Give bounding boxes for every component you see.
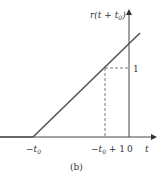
figure-caption: (b) (70, 162, 83, 172)
chart-figure: r(t + t0) 1 −t0 −t0 + 1 0 t (b) (0, 0, 157, 174)
ramp-sloped-segment (33, 33, 140, 137)
chart-svg: r(t + t0) 1 −t0 −t0 + 1 0 t (b) (0, 0, 157, 174)
x-tick-neg-t0: −t0 (26, 144, 41, 155)
x-axis-label: t (145, 144, 149, 154)
x-tick-neg-t0-plus-1: −t0 + 1 (91, 144, 125, 155)
y-tick-1: 1 (133, 64, 139, 74)
x-tick-zero: 0 (127, 144, 133, 154)
y-axis-label: r(t + t0) (90, 10, 126, 21)
